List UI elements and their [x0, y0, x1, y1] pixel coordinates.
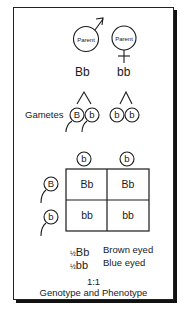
punnett-col-header-2: b	[121, 154, 133, 164]
diagram-artwork: Parent Parent	[0, 0, 185, 316]
punnett-cell-r1c1: Bb	[67, 179, 107, 190]
result-phenotype-1: Brown eyed	[103, 245, 153, 255]
female-genotype: bb	[117, 66, 130, 78]
gamete-male-1: B	[71, 110, 83, 120]
result-phenotype-2: Blue eyed	[103, 258, 145, 268]
punnett-cell-r2c1: bb	[67, 210, 107, 221]
gamete-female-1: b	[111, 110, 123, 120]
gamete-male-2: b	[86, 110, 98, 120]
punnett-cell-r1c2: Bb	[108, 179, 148, 190]
male-symbol-icon	[74, 18, 104, 52]
punnett-row-header-2: b	[45, 212, 57, 222]
result-row-2: ½bb	[70, 256, 88, 272]
result-genotype: bb	[76, 259, 88, 271]
male-parent-label: Parent	[77, 37, 95, 43]
gamete-female-2: b	[126, 110, 138, 120]
gametes-label: Gametes	[25, 110, 64, 120]
punnett-cell-r2c2: bb	[108, 210, 148, 221]
punnett-row-header-1: B	[45, 179, 57, 189]
female-symbol-icon	[112, 26, 136, 63]
female-branch-icon	[120, 92, 132, 104]
punnett-col-header-1: b	[78, 154, 90, 164]
male-genotype: Bb	[75, 66, 90, 78]
female-parent-label: Parent	[115, 36, 133, 42]
ratio-label: 1:1	[13, 277, 174, 287]
caption: Genotype and Phenotype	[13, 288, 174, 298]
male-branch-icon	[77, 92, 91, 104]
